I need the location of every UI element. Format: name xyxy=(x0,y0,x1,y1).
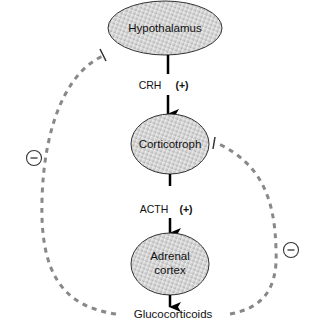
hypothalamus-label: Hypothalamus xyxy=(128,22,202,34)
inhibition-bar-icon xyxy=(100,49,106,61)
edge-acth: ACTH (+) xyxy=(140,174,193,233)
crh-label: CRH xyxy=(139,79,162,91)
adrenal-label-line2: cortex xyxy=(154,264,186,276)
adrenal-label-line1: Adrenal xyxy=(150,250,190,262)
glucocorticoids-label: Glucocorticoids xyxy=(134,308,213,320)
minus-circle-icon xyxy=(284,243,299,258)
feedback-loop-corticotroph xyxy=(213,137,299,314)
acth-label: ACTH xyxy=(140,203,169,215)
node-hypothalamus: Hypothalamus xyxy=(108,1,222,55)
feedback-loop-hypothalamus xyxy=(27,49,117,314)
crh-effect-label: (+) xyxy=(175,79,188,91)
corticotroph-label: Corticotroph xyxy=(139,138,202,150)
edge-crh: CRH (+) xyxy=(139,55,189,114)
hpa-axis-diagram: Hypothalamus CRH (+) Corticotroph ACTH (… xyxy=(0,0,321,329)
node-corticotroph: Corticotroph xyxy=(131,114,209,174)
inhibition-bar-icon xyxy=(213,137,215,149)
acth-effect-label: (+) xyxy=(179,203,192,215)
minus-circle-icon xyxy=(27,151,42,166)
node-adrenal-cortex: Adrenal cortex xyxy=(131,233,209,295)
